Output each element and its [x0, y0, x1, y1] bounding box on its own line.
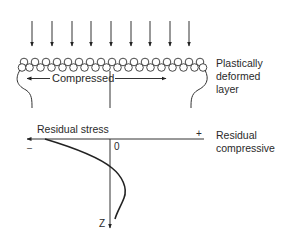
left-edge	[17, 70, 32, 108]
label-line: Plastically	[216, 57, 263, 70]
label-line: layer	[216, 83, 263, 96]
plastically-deformed-layer-label: Plastically deformed layer	[216, 57, 263, 96]
label-line: Residual	[216, 129, 275, 142]
compressed-label: Compressed	[52, 72, 114, 84]
minus-sign: –	[27, 142, 32, 154]
depth-axis-label: Z	[99, 218, 105, 230]
shot-particles	[18, 58, 207, 71]
label-line: deformed	[216, 70, 263, 83]
plus-sign: +	[196, 128, 202, 140]
residual-stress-axis-label: Residual stress	[37, 123, 109, 135]
right-edge	[191, 70, 207, 108]
residual-compressive-label: Residual compressive	[216, 129, 275, 155]
load-arrows	[32, 21, 189, 46]
label-line: compressive	[216, 142, 275, 155]
origin-label: 0	[114, 141, 120, 153]
